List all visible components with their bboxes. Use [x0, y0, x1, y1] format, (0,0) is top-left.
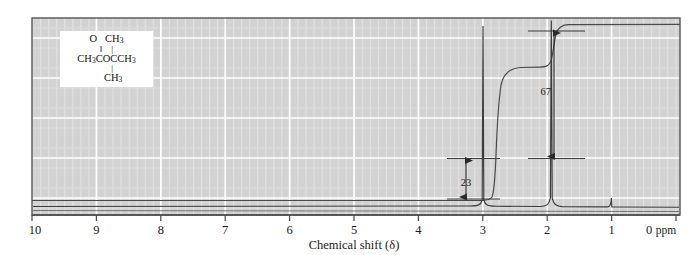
x-tick-label-5: 5: [351, 223, 357, 237]
integration-67-label: 67: [541, 86, 552, 97]
x-tick-label-0: 0: [646, 223, 652, 237]
nmr-spectrum-figure: 23 67 10: [0, 0, 694, 255]
structure-bottom-row: CH3: [91, 73, 122, 84]
x-tick-label-7: 7: [222, 223, 228, 237]
x-axis: 10 9 8 7 6 5 4 3 2 1 0 ppm: [29, 215, 680, 237]
integration-23-label: 23: [461, 177, 472, 188]
structure-top-row: O CH3: [90, 34, 124, 45]
x-tick-label-3: 3: [480, 223, 486, 237]
x-tick-label-1: 1: [608, 223, 614, 237]
x-axis-title: Chemical shift (δ): [309, 238, 400, 252]
x-axis-ticks: [32, 215, 676, 221]
x-tick-label-10: 10: [29, 223, 42, 237]
x-tick-label-8: 8: [158, 223, 164, 237]
x-tick-label-4: 4: [415, 223, 422, 237]
chemical-structure-inset: O CH3 ‖ | CH3COCCH3 | CH3: [60, 31, 153, 87]
ppm-unit-label: ppm: [656, 224, 677, 237]
x-tick-label-9: 9: [93, 223, 99, 237]
x-tick-label-6: 6: [286, 223, 292, 237]
x-tick-label-2: 2: [544, 223, 550, 237]
